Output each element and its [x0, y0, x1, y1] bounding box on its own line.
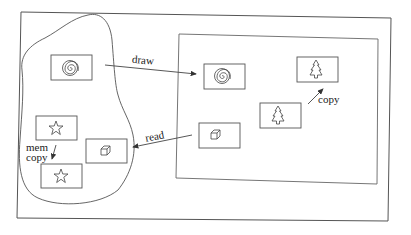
- screen-tree-sprite-1[interactable]: [297, 57, 338, 82]
- mem-copy-arrow: [52, 145, 56, 159]
- mem-cube-sprite[interactable]: [86, 139, 127, 163]
- copy-label: copy: [318, 93, 340, 105]
- mem-star-sprite-2[interactable]: [41, 164, 82, 188]
- mem-spiral-sprite[interactable]: [51, 55, 92, 80]
- screen-spiral-sprite[interactable]: [204, 64, 245, 89]
- draw-label: draw: [132, 53, 155, 67]
- screen-tree-sprite-2[interactable]: [260, 103, 301, 128]
- mem-copy-label-line2: copy: [26, 151, 48, 163]
- mem-star-sprite-1[interactable]: [36, 116, 77, 140]
- screen-cube-sprite[interactable]: [199, 123, 240, 148]
- diagram-canvas: draw read copy mem copy: [0, 0, 411, 235]
